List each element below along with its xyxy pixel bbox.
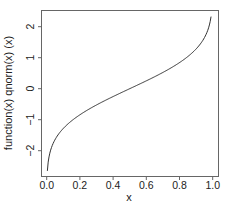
- x-axis: 0.00.20.40.60.81.0: [39, 177, 220, 192]
- qnorm-curve: [47, 17, 211, 171]
- plot-box: [42, 11, 219, 177]
- y-axis-label: function(x) qnorm(x) (x): [2, 36, 14, 150]
- y-tick-label: −2: [24, 145, 36, 157]
- x-tick-label: 0.2: [73, 179, 88, 191]
- y-tick-label: 2: [24, 24, 36, 30]
- y-axis: −2−1012: [24, 24, 42, 157]
- x-tick-label: 0.6: [139, 179, 154, 191]
- x-axis-label: x: [126, 191, 132, 203]
- y-tick-label: 0: [24, 86, 36, 92]
- qnorm-plot: 0.00.20.40.60.81.0 −2−1012 x function(x)…: [0, 0, 231, 210]
- x-tick-label: 1.0: [205, 179, 220, 191]
- y-tick-label: −1: [24, 114, 36, 126]
- x-tick-label: 0.4: [106, 179, 121, 191]
- x-tick-label: 0.8: [172, 179, 187, 191]
- y-tick-label: 1: [24, 55, 36, 61]
- x-tick-label: 0.0: [39, 179, 54, 191]
